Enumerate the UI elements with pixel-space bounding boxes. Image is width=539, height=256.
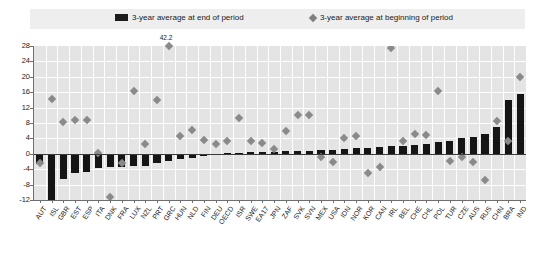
y-axis-tick-label: -12 xyxy=(6,196,30,204)
x-axis-tick xyxy=(157,200,158,203)
diamond-marker xyxy=(200,135,208,143)
diamond-marker xyxy=(47,95,55,103)
diamond-marker xyxy=(293,110,301,118)
bar xyxy=(388,146,395,153)
gridline-vertical xyxy=(292,46,293,200)
x-axis-tick xyxy=(344,200,345,203)
y-axis-tick-label: 24 xyxy=(6,57,30,65)
gridline-vertical xyxy=(432,46,433,200)
legend-label-end-of-period: 3-year average at end of period xyxy=(132,13,244,22)
gridline-vertical xyxy=(514,46,515,200)
bar xyxy=(435,142,442,154)
chart-legend: 3-year average at end of period 3-year a… xyxy=(30,9,525,29)
x-axis-tick xyxy=(415,200,416,203)
diamond-marker xyxy=(211,140,219,148)
bar xyxy=(107,154,114,167)
y-axis-tick-label: 8 xyxy=(6,119,30,127)
bar xyxy=(153,154,160,163)
bar xyxy=(493,127,500,154)
bar xyxy=(517,94,524,154)
x-axis-tick xyxy=(40,200,41,203)
diamond-marker xyxy=(492,117,500,125)
bar xyxy=(71,154,78,173)
diamond-marker xyxy=(188,126,196,134)
diamond-marker xyxy=(129,87,137,95)
gridline-vertical xyxy=(257,46,258,200)
gridline-vertical xyxy=(81,46,82,200)
diamond-marker xyxy=(106,193,114,200)
x-axis-tick xyxy=(169,200,170,203)
y-axis-tick-label: -8 xyxy=(6,181,30,189)
y-axis-tick xyxy=(30,169,34,170)
y-axis-tick-label: 0 xyxy=(6,150,30,158)
y-axis-tick xyxy=(30,92,34,93)
gridline-vertical xyxy=(409,46,410,200)
bar-swatch-icon xyxy=(115,14,128,21)
x-axis-tick xyxy=(485,200,486,203)
x-axis-tick xyxy=(403,200,404,203)
x-axis-tick xyxy=(438,200,439,203)
plot-area xyxy=(34,46,526,200)
x-axis-tick xyxy=(134,200,135,203)
x-axis-tick xyxy=(180,200,181,203)
x-axis-tick xyxy=(98,200,99,203)
x-axis-tick xyxy=(204,200,205,203)
diamond-marker xyxy=(176,132,184,140)
x-axis-line xyxy=(33,200,526,201)
diamond-marker xyxy=(141,140,149,148)
gridline-vertical xyxy=(210,46,211,200)
x-axis-tick xyxy=(508,200,509,203)
legend-label-beginning-of-period: 3-year average at beginning of period xyxy=(320,13,453,22)
diamond-marker xyxy=(258,139,266,147)
bar xyxy=(446,141,453,154)
gridline-vertical xyxy=(479,46,480,200)
legend-item-beginning-of-period: 3-year average at beginning of period xyxy=(310,13,453,22)
bar xyxy=(481,134,488,154)
gridline-vertical xyxy=(233,46,234,200)
diamond-marker xyxy=(364,169,372,177)
y-axis-tick xyxy=(30,61,34,62)
y-axis-tick-label: 16 xyxy=(6,88,30,96)
gridline-vertical xyxy=(303,46,304,200)
gridline-vertical xyxy=(362,46,363,200)
x-axis-tick xyxy=(391,200,392,203)
gridline-vertical xyxy=(57,46,58,200)
bar xyxy=(423,144,430,154)
bar xyxy=(142,154,149,166)
diamond-marker xyxy=(387,46,395,52)
y-axis-tick xyxy=(30,138,34,139)
x-axis-tick xyxy=(75,200,76,203)
x-axis-tick xyxy=(122,200,123,203)
bar xyxy=(470,137,477,154)
gridline-vertical xyxy=(350,46,351,200)
gridline-vertical xyxy=(198,46,199,200)
gridline-vertical xyxy=(116,46,117,200)
x-axis-tick xyxy=(426,200,427,203)
plot-inner xyxy=(34,46,526,200)
x-axis-tick xyxy=(274,200,275,203)
x-axis-tick xyxy=(368,200,369,203)
chart-container: 3-year average at end of period 3-year a… xyxy=(0,0,539,256)
y-axis-tick xyxy=(30,123,34,124)
gridline-vertical xyxy=(139,46,140,200)
x-axis-tick xyxy=(145,200,146,203)
gridline-vertical xyxy=(339,46,340,200)
x-axis-tick xyxy=(356,200,357,203)
y-axis-tick xyxy=(30,185,34,186)
bar xyxy=(83,154,90,172)
diamond-marker xyxy=(375,163,383,171)
bar xyxy=(48,154,55,200)
x-axis-tick xyxy=(251,200,252,203)
y-axis-tick xyxy=(30,200,34,201)
y-axis-tick-label: 28 xyxy=(6,42,30,50)
legend-item-end-of-period: 3-year average at end of period xyxy=(115,13,244,22)
x-axis-tick xyxy=(462,200,463,203)
gridline-vertical xyxy=(327,46,328,200)
x-axis-tick xyxy=(520,200,521,203)
x-axis-tick xyxy=(298,200,299,203)
x-axis-tick xyxy=(497,200,498,203)
value-annotation: 42.2 xyxy=(160,34,173,41)
x-axis-tick xyxy=(321,200,322,203)
diamond-marker xyxy=(153,96,161,104)
y-axis-tick-label: 20 xyxy=(6,73,30,81)
